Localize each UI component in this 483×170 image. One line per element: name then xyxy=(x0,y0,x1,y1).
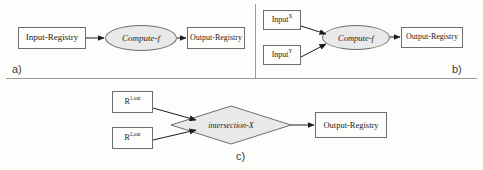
superscript-y: Y xyxy=(289,48,293,54)
node-output-registry-c[interactable]: Output-Registry xyxy=(315,112,387,138)
node-label: Output-Registry xyxy=(406,33,458,41)
arrow-input-x-to-compute-b xyxy=(301,26,326,34)
node-compute-f-b[interactable]: Compute-f xyxy=(322,25,390,50)
node-label: R1,out xyxy=(124,98,140,106)
node-label: R2,out xyxy=(124,134,140,142)
node-label: InputY xyxy=(272,51,293,59)
node-label: Input-Registry xyxy=(26,33,79,42)
superscript-1-out: 1,out xyxy=(130,95,141,101)
node-output-registry-b[interactable]: Output-Registry xyxy=(401,27,463,48)
node-label: Output-Registry xyxy=(190,34,242,42)
node-label: InputX xyxy=(272,16,293,24)
node-input-y-b[interactable]: InputY xyxy=(263,45,301,65)
node-label: Compute-f xyxy=(338,33,374,43)
node-r2-out-c[interactable]: R2,out xyxy=(112,127,153,149)
figure-canvas: Input-Registry Compute-f Output-Registry… xyxy=(0,0,483,170)
node-output-registry-a[interactable]: Output-Registry xyxy=(187,27,245,49)
node-r1-out-c[interactable]: R1,out xyxy=(112,91,153,113)
diamond-shape xyxy=(170,105,292,145)
panel-caption-c: c) xyxy=(236,150,245,162)
superscript-2-out: 2,out xyxy=(130,131,141,137)
node-intersection-x-c[interactable]: intersection-X xyxy=(170,105,292,145)
node-label: Output-Registry xyxy=(323,121,378,130)
superscript-x: X xyxy=(289,13,293,19)
panel-divider-vertical xyxy=(255,4,256,79)
panel-divider-horizontal xyxy=(6,78,477,79)
arrow-input-y-to-compute-b xyxy=(301,44,326,57)
node-input-x-b[interactable]: InputX xyxy=(263,10,301,30)
node-compute-f-a[interactable]: Compute-f xyxy=(105,25,177,51)
panel-caption-b: b) xyxy=(452,63,462,75)
node-input-registry-a[interactable]: Input-Registry xyxy=(18,27,86,49)
panel-caption-a: a) xyxy=(12,63,22,75)
node-label: Compute-f xyxy=(122,33,160,43)
